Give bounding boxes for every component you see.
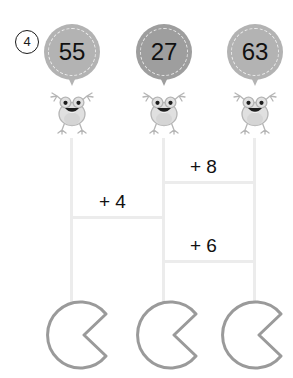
ladder-rung	[70, 216, 165, 219]
ladder-rail	[253, 138, 256, 304]
ladder-rail	[162, 138, 165, 304]
worksheet-canvas: 4 55 27 63	[0, 0, 293, 378]
frog-icon	[47, 89, 97, 135]
balloon-number: 27	[136, 24, 192, 80]
exercise-number: 4	[15, 30, 39, 54]
balloon-1: 55	[44, 24, 100, 80]
balloon-number: 63	[227, 24, 283, 80]
answer-pad-middle[interactable]	[130, 300, 204, 370]
balloon-number: 55	[44, 24, 100, 80]
frog-icon	[230, 89, 280, 135]
operation-plus-6: + 6	[190, 235, 217, 257]
answer-pad-left[interactable]	[40, 300, 114, 370]
operation-plus-4: + 4	[99, 191, 126, 213]
operation-plus-8: + 8	[190, 156, 217, 178]
balloon-3: 63	[227, 24, 283, 80]
frog-icon	[139, 89, 189, 135]
ladder-rail	[70, 138, 73, 304]
balloon-2: 27	[136, 24, 192, 80]
answer-pad-right[interactable]	[215, 300, 289, 370]
ladder-rung	[162, 260, 256, 263]
ladder-rung	[162, 181, 256, 184]
